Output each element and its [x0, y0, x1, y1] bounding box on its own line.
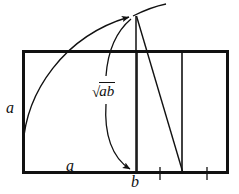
diagram-canvas: [0, 0, 239, 194]
apex-diagonal: [137, 16, 184, 173]
label-side-a-left: a: [6, 100, 14, 116]
outer-rectangle: [24, 52, 228, 173]
callout-curve-upper: [106, 19, 131, 76]
callout-curve-lower: [106, 104, 130, 169]
apex-tangent-arc: [133, 4, 166, 16]
geometric-mean-diagram: a a b √ab: [0, 0, 239, 194]
radicand-ab: ab: [99, 82, 115, 99]
label-segment-b: b: [131, 174, 139, 190]
label-geometric-mean: √ab: [92, 84, 115, 99]
radical-sign-icon: √: [92, 84, 100, 100]
label-side-a-bottom: a: [66, 158, 74, 174]
